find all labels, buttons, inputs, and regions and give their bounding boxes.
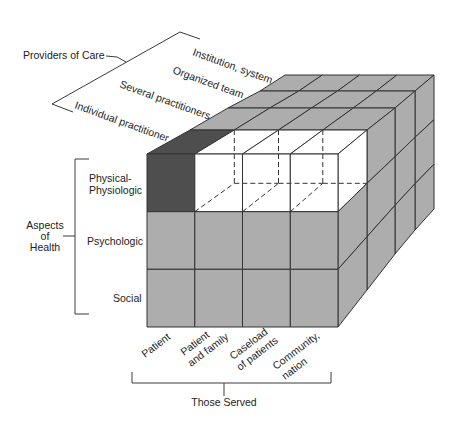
cube-front-cell (195, 212, 243, 270)
health-level-physical-physiologic: Physiologic (89, 184, 142, 196)
care-dimensions-cube-diagram: Providers of Care Individual practitione… (0, 0, 456, 423)
cube-highlighted-cell (147, 154, 195, 212)
cube-front-cell (243, 212, 291, 270)
cube-front-cell (195, 269, 243, 327)
health-level-social: Social (113, 292, 142, 304)
aspects-of-health-title-line: Health (30, 241, 61, 253)
health-level-physical-physiologic: Physical- (89, 172, 132, 184)
providers-of-care-title: Providers of Care (23, 49, 105, 61)
cube-front-cell (290, 212, 338, 270)
those-served-title: Those Served (191, 396, 257, 408)
health-level-psychologic: Psychologic (87, 235, 143, 247)
cube-front-cell (147, 269, 195, 327)
cube-front-cell (243, 269, 291, 327)
cube-front-cell (147, 212, 195, 270)
cube-front-cell (290, 269, 338, 327)
